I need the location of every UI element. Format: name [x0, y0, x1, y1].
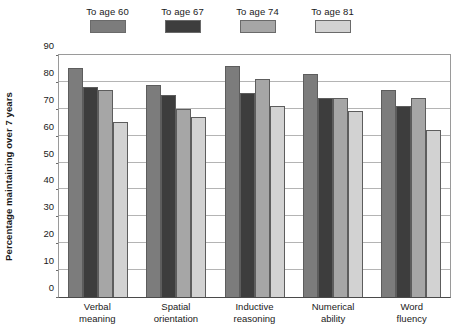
bar[interactable] — [161, 95, 176, 297]
bar[interactable] — [318, 98, 333, 297]
y-axis-title: Percentage maintaining over 7 years — [0, 54, 16, 298]
legend-label-to-age-74: To age 74 — [236, 6, 279, 17]
legend-label-to-age-81: To age 81 — [311, 6, 354, 17]
y-axis-tick-labels: 9080706050403020100 — [24, 54, 54, 298]
y-tick-label: 40 — [43, 175, 54, 185]
bar[interactable] — [303, 74, 318, 297]
bar[interactable] — [146, 85, 161, 297]
x-tick-label: Verbalmeaning — [58, 301, 137, 325]
y-tick-label: 50 — [43, 149, 54, 159]
chart-legend: To age 60 To age 67 To age 74 To age 81 — [70, 6, 370, 46]
bar[interactable] — [426, 130, 441, 297]
x-tick-label: Spatialorientation — [137, 301, 216, 325]
legend-entry-to-age-67: To age 67 — [145, 6, 220, 33]
bar-chart-figure: To age 60 To age 67 To age 74 To age 81 … — [0, 0, 459, 334]
bar[interactable] — [381, 90, 396, 297]
y-tick-label: 20 — [43, 229, 54, 239]
x-tick-label: Inductivereasoning — [215, 301, 294, 325]
bar[interactable] — [255, 79, 270, 297]
bar[interactable] — [333, 98, 348, 297]
bar[interactable] — [348, 111, 363, 297]
bar-group — [372, 55, 450, 297]
bar[interactable] — [191, 117, 206, 297]
legend-entry-to-age-60: To age 60 — [70, 6, 145, 33]
x-axis-tick-labels: VerbalmeaningSpatialorientationInductive… — [58, 301, 451, 325]
bar[interactable] — [396, 106, 411, 297]
y-tick-label: 90 — [43, 41, 54, 51]
bar[interactable] — [113, 122, 128, 297]
legend-entry-to-age-81: To age 81 — [295, 6, 370, 33]
bar-group — [137, 55, 215, 297]
bar[interactable] — [98, 90, 113, 297]
bar-group — [59, 55, 137, 297]
plot-area — [58, 54, 451, 298]
bar-groups — [59, 55, 450, 297]
legend-swatch-to-age-74 — [240, 20, 276, 33]
y-tick-label: 70 — [43, 95, 54, 105]
legend-swatch-to-age-60 — [90, 20, 126, 33]
bar-group — [294, 55, 372, 297]
x-tick-label: Numericalability — [294, 301, 373, 325]
bar[interactable] — [68, 68, 83, 297]
legend-swatch-to-age-81 — [315, 20, 351, 33]
bar[interactable] — [225, 66, 240, 297]
y-tick-label: 60 — [43, 122, 54, 132]
legend-swatch-to-age-67 — [165, 20, 201, 33]
legend-entry-to-age-74: To age 74 — [220, 6, 295, 33]
bar-group — [215, 55, 293, 297]
legend-label-to-age-67: To age 67 — [161, 6, 204, 17]
x-tick-label: Wordfluency — [372, 301, 451, 325]
bar[interactable] — [411, 98, 426, 297]
y-tick-label: 80 — [43, 68, 54, 78]
y-tick-label: 10 — [43, 256, 54, 266]
bar[interactable] — [270, 106, 285, 297]
y-tick-label: 30 — [43, 202, 54, 212]
y-axis-title-text: Percentage maintaining over 7 years — [3, 92, 14, 261]
bar[interactable] — [176, 109, 191, 297]
bar[interactable] — [240, 93, 255, 297]
y-tick-label: 0 — [49, 283, 54, 293]
bar[interactable] — [83, 87, 98, 297]
legend-label-to-age-60: To age 60 — [86, 6, 129, 17]
